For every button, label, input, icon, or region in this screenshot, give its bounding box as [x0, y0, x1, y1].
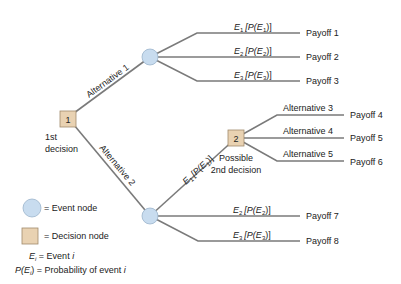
legend-probability-definition: P(Ei) = Probability of event i [15, 265, 127, 276]
payoff-2: Payoff 2 [306, 52, 339, 62]
alternative-5-label: Alternative 5 [283, 149, 333, 159]
alternative-4-label: Alternative 4 [283, 126, 333, 136]
branch-event-top-3 [150, 57, 300, 81]
legend-event-definition: Ei = Event i [29, 251, 75, 262]
legend-decision-node-icon [22, 228, 38, 244]
svg-text:E3[P(E3)]: E3[P(E3)] [234, 70, 272, 81]
event-top-1-label: E1[P(E1)] [234, 22, 272, 33]
branch-event-bottom-3 [150, 216, 300, 241]
payoff-7: Payoff 7 [306, 211, 339, 221]
payoff-6: Payoff 6 [350, 157, 383, 167]
svg-text:E1[P(E1)]: E1[P(E1)] [234, 22, 272, 33]
decision-node-2-caption-line2: 2nd decision [211, 165, 262, 175]
payoff-5: Payoff 5 [350, 133, 383, 143]
svg-text:E2[P(E2)]: E2[P(E2)] [234, 46, 272, 57]
decision-node-1-caption-line2: decision [45, 144, 78, 154]
decision-node-2-label: 2 [233, 134, 238, 144]
decision-node-1-caption-line1: 1st [45, 132, 58, 142]
event-node-top [142, 49, 158, 65]
legend-event-node-icon [23, 199, 41, 217]
payoff-3: Payoff 3 [306, 76, 339, 86]
svg-text:E3[P(E3)]: E3[P(E3)] [233, 230, 271, 241]
decision-node-1-label: 1 [65, 115, 70, 125]
payoff-4: Payoff 4 [350, 110, 383, 120]
legend-decision-node-label: = Decision node [44, 231, 109, 241]
branch-event-top-1 [150, 33, 300, 57]
alternative-1-label: Alternative 1 [84, 62, 130, 99]
decision-node-2-caption-line1: Possible [219, 153, 253, 163]
decision-tree-diagram: 1 1st decision 2 Possible 2nd decision A… [0, 0, 401, 284]
legend-event-node-label: = Event node [44, 203, 97, 213]
event-top-2-label: E2[P(E2)] [234, 46, 272, 57]
branch-alternative-1 [74, 57, 150, 113]
alternative-2-label: Alternative 2 [97, 143, 137, 188]
svg-text:E2[P(E2)]: E2[P(E2)] [233, 205, 271, 216]
decision-node-1: 1 [60, 111, 76, 127]
payoff-1: Payoff 1 [306, 28, 339, 38]
payoff-8: Payoff 8 [306, 236, 339, 246]
tree-lines [74, 33, 344, 241]
alternative-3-label: Alternative 3 [283, 103, 333, 113]
event-node-bottom [142, 208, 158, 224]
decision-node-2: 2 [228, 130, 244, 146]
event-bottom-3-label: E3[P(E3)] [233, 230, 271, 241]
event-bottom-2-label: E2[P(E2)] [233, 205, 271, 216]
legend: = Event node = Decision node Ei = Event … [15, 199, 127, 276]
event-top-3-label: E3[P(E3)] [234, 70, 272, 81]
